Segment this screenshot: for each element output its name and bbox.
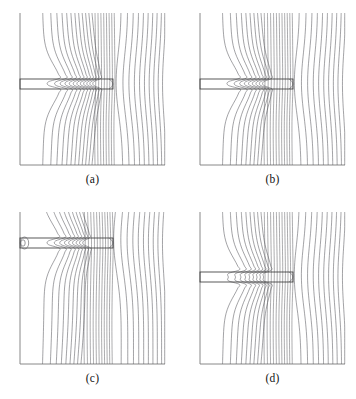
contour-line bbox=[148, 212, 153, 364]
contour-line bbox=[338, 13, 341, 165]
panel-caption-a: (a) bbox=[20, 173, 165, 185]
contour-line bbox=[329, 212, 333, 364]
contour-field-c bbox=[19, 211, 166, 365]
contour-line bbox=[102, 212, 103, 364]
contour-line bbox=[163, 13, 165, 165]
contour-panel-d bbox=[199, 211, 346, 365]
contour-line bbox=[104, 212, 105, 364]
contour-line bbox=[282, 212, 283, 364]
contour-line bbox=[70, 212, 82, 364]
panel-caption-c: (c) bbox=[20, 372, 165, 384]
contour-field-b bbox=[199, 12, 346, 166]
contour-line bbox=[96, 212, 97, 364]
contour-line bbox=[61, 212, 75, 364]
slab-tip-contour bbox=[289, 272, 293, 282]
contour-line bbox=[324, 13, 328, 165]
contour-line bbox=[114, 212, 122, 364]
left-end-contour-loop-inner bbox=[21, 240, 25, 246]
contour-line bbox=[112, 212, 113, 364]
contour-line bbox=[329, 13, 333, 165]
contour-line bbox=[107, 212, 108, 364]
slab-tip-contour bbox=[109, 238, 113, 248]
contour-line bbox=[324, 212, 329, 364]
contour-line bbox=[292, 212, 293, 364]
contour-line bbox=[287, 212, 288, 364]
contour-line bbox=[301, 13, 307, 165]
contour-panel-b bbox=[199, 12, 346, 166]
contour-line bbox=[149, 13, 153, 165]
contour-line bbox=[134, 13, 139, 165]
left-end-contour-loop bbox=[20, 237, 28, 249]
contour-line bbox=[158, 212, 162, 364]
contour-line bbox=[123, 13, 129, 165]
contour-line bbox=[276, 212, 277, 364]
contour-line bbox=[333, 212, 337, 364]
contour-line bbox=[138, 212, 143, 364]
contour-line bbox=[301, 212, 307, 364]
contour-line bbox=[250, 212, 263, 364]
contour-line bbox=[144, 13, 148, 165]
contour-line bbox=[116, 13, 123, 165]
panel-caption-b: (b) bbox=[200, 173, 345, 185]
contour-line bbox=[308, 212, 314, 364]
contour-line bbox=[264, 212, 265, 364]
contour-line bbox=[129, 13, 135, 165]
contour-field-d bbox=[199, 211, 346, 365]
contour-line bbox=[158, 13, 161, 165]
figure-container: (a) (b) (c) (d) bbox=[0, 0, 356, 399]
panel-caption-d: (d) bbox=[200, 372, 345, 384]
contour-line bbox=[99, 212, 100, 364]
contour-line bbox=[143, 212, 148, 364]
contour-line bbox=[109, 212, 110, 364]
contour-line bbox=[342, 212, 344, 364]
contour-line bbox=[267, 212, 268, 364]
contour-line bbox=[342, 13, 344, 165]
contour-line bbox=[273, 212, 274, 364]
contour-panel-c bbox=[19, 211, 166, 365]
contour-line bbox=[154, 13, 158, 165]
contour-line bbox=[246, 212, 260, 364]
contour-line bbox=[140, 13, 145, 165]
contour-panel-a bbox=[19, 12, 166, 166]
contour-line bbox=[338, 212, 342, 364]
contour-line bbox=[81, 212, 91, 364]
contour-line bbox=[162, 212, 164, 364]
contour-field-a bbox=[19, 12, 166, 166]
contour-line bbox=[308, 13, 314, 165]
contour-line bbox=[313, 13, 318, 165]
contour-line bbox=[333, 13, 337, 165]
slab-tip-contour bbox=[289, 79, 293, 89]
contour-line bbox=[93, 212, 94, 364]
contour-line bbox=[241, 212, 255, 364]
contour-line bbox=[294, 13, 301, 165]
contour-line bbox=[289, 212, 290, 364]
contour-lines bbox=[43, 212, 165, 364]
contour-line bbox=[270, 212, 271, 364]
contour-line bbox=[114, 13, 115, 165]
contour-line bbox=[153, 212, 157, 364]
contour-line bbox=[90, 212, 91, 364]
contour-line bbox=[294, 212, 301, 364]
contour-line bbox=[236, 212, 251, 364]
contour-line bbox=[66, 212, 79, 364]
contour-line bbox=[313, 212, 318, 364]
slab-outline bbox=[200, 272, 293, 282]
contour-line bbox=[121, 212, 128, 364]
contour-lines bbox=[223, 212, 345, 364]
contour-line bbox=[319, 13, 324, 165]
contour-line bbox=[279, 212, 280, 364]
contour-line bbox=[284, 212, 285, 364]
contour-line bbox=[319, 212, 324, 364]
